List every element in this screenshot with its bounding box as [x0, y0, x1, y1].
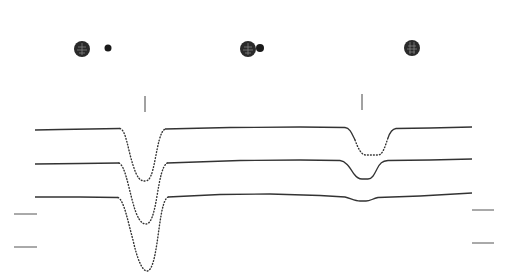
configuration-2-icon: [240, 41, 264, 57]
light-curve-figure: [0, 0, 514, 276]
configuration-1-icon: [74, 41, 112, 57]
light-curve-3: [35, 193, 472, 271]
configuration-3-icon: [404, 40, 420, 56]
light-curve-1: [35, 127, 472, 181]
light-curve-2: [35, 159, 472, 224]
